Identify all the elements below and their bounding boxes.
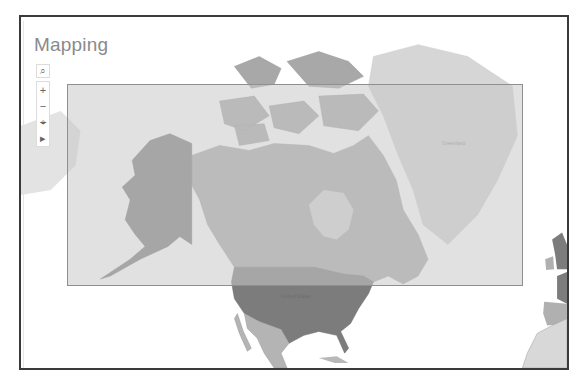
label-greenland: Greenland	[442, 140, 465, 146]
search-button[interactable]: ⌕	[36, 64, 50, 78]
selection-rectangle[interactable]	[67, 84, 523, 286]
clear-selection-button[interactable]: ⌖	[37, 114, 49, 130]
minus-icon: −	[40, 100, 46, 112]
zoom-out-button[interactable]: −	[37, 98, 49, 114]
plus-icon: +	[40, 84, 46, 96]
play-button[interactable]: ▸	[37, 130, 49, 146]
panel-title: Mapping	[34, 34, 108, 56]
map-controls-group: + − ⌖ ▸	[36, 81, 50, 147]
region-ireland	[545, 256, 554, 270]
region-uk	[552, 233, 567, 270]
search-icon: ⌕	[40, 66, 46, 76]
zoom-in-button[interactable]: +	[37, 82, 49, 98]
label-united-states: United States	[279, 293, 313, 299]
clear-selection-icon: ⌖	[40, 116, 46, 129]
region-cuba	[319, 356, 349, 363]
play-icon: ▸	[40, 132, 46, 145]
region-france	[557, 272, 567, 304]
region-africa	[522, 319, 567, 368]
mapping-panel: Mapping ⌕ + − ⌖ ▸ Greenland United State…	[19, 15, 569, 370]
